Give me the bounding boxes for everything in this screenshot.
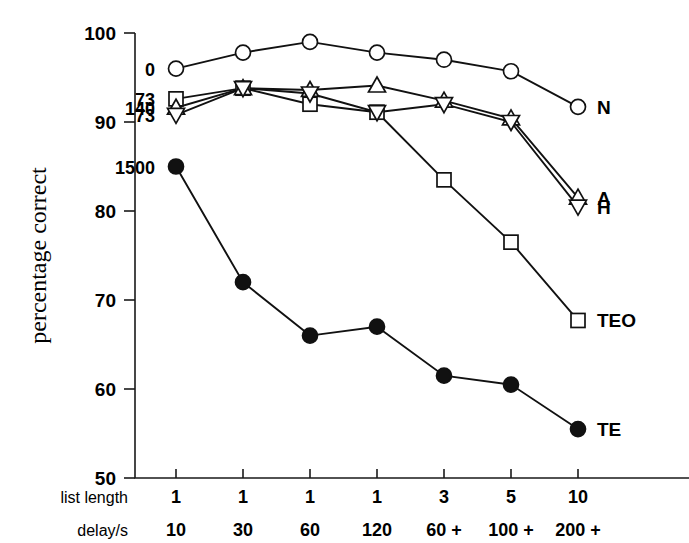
x-tick-label: 30 (233, 520, 253, 540)
series-line-A (176, 86, 578, 198)
marker-open-circle (437, 52, 452, 67)
marker-open-triangle-down (570, 200, 587, 215)
x-tick-label: 1 (305, 487, 315, 507)
marker-filled-circle (504, 377, 519, 392)
x-tick-label: 5 (506, 487, 516, 507)
y-tick-label: 50 (95, 468, 116, 489)
y-tick-label: 70 (95, 290, 116, 311)
y-tick-label: 60 (95, 379, 116, 400)
series-annotation-TE: 1500 (115, 158, 155, 178)
x-tick-label: 3 (439, 487, 449, 507)
series-annotation-H: 73 (135, 106, 155, 126)
x-tick-label: 10 (166, 520, 186, 540)
x-tick-label: 60 + (426, 520, 462, 540)
marker-open-circle (303, 34, 318, 49)
marker-open-circle (236, 45, 251, 60)
marker-open-square (504, 235, 518, 249)
marker-filled-circle (303, 328, 318, 343)
marker-filled-circle (571, 422, 586, 437)
marker-filled-circle (169, 159, 184, 174)
series-end-label-H: H (597, 197, 611, 218)
marker-filled-circle (370, 319, 385, 334)
marker-open-square (437, 173, 451, 187)
series-end-label-TE: TE (597, 419, 621, 440)
marker-open-square (571, 313, 585, 327)
marker-open-circle (504, 64, 519, 79)
x-tick-label: 1 (372, 487, 382, 507)
x-tick-label: 1 (238, 487, 248, 507)
x-tick-label: 60 (300, 520, 320, 540)
series-end-label-N: N (597, 97, 611, 118)
x-row-label-0: list length (60, 489, 128, 506)
marker-open-circle (169, 61, 184, 76)
series-end-label-TEO: TEO (597, 310, 636, 331)
chart-figure: 5060708090100percentage correctlist leng… (0, 0, 689, 543)
marker-open-circle (370, 45, 385, 60)
chart-svg: 5060708090100percentage correctlist leng… (0, 0, 689, 543)
x-tick-label: 120 (362, 520, 392, 540)
marker-open-triangle-up (369, 77, 386, 92)
y-tick-label: 90 (95, 112, 116, 133)
x-tick-label: 10 (568, 487, 588, 507)
marker-filled-circle (437, 368, 452, 383)
x-tick-label: 1 (171, 487, 181, 507)
x-tick-label: 100 + (488, 520, 534, 540)
marker-filled-circle (236, 275, 251, 290)
marker-open-triangle-down (168, 108, 185, 123)
series-line-TE (176, 167, 578, 430)
y-tick-label: 80 (95, 201, 116, 222)
marker-open-circle (571, 99, 586, 114)
x-tick-label: 200 + (555, 520, 601, 540)
x-row-label-1: delay/s (77, 522, 128, 539)
series-annotation-N: 0 (145, 60, 155, 80)
y-axis-title: percentage correct (25, 167, 51, 344)
y-tick-label: 100 (84, 23, 116, 44)
